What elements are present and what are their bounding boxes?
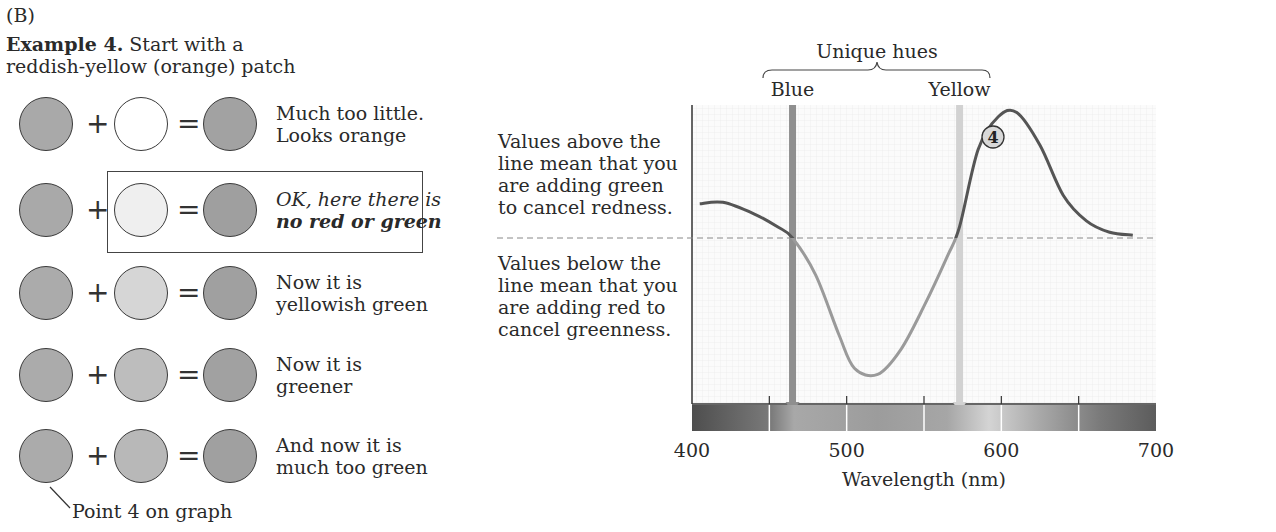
chart-title: Unique hues	[816, 40, 937, 62]
x-tick-labels: 400500600700	[674, 439, 1174, 461]
x-tick-label: 700	[1138, 439, 1174, 461]
hue-label-yellow: Yellow	[928, 78, 992, 100]
x-tick-label: 600	[983, 439, 1019, 461]
unique-hues-bracket	[763, 62, 990, 78]
svg-text:4: 4	[987, 128, 998, 147]
spectrum-bar	[692, 405, 1156, 431]
hue-cancellation-chart: Unique hues BlueYellow 4 400500600700 Wa…	[0, 0, 1276, 532]
x-axis-label: Wavelength (nm)	[842, 468, 1006, 490]
x-tick-label: 400	[674, 439, 710, 461]
point-4-marker: 4	[982, 126, 1004, 148]
hue-label-blue: Blue	[771, 78, 815, 100]
x-tick-label: 500	[829, 439, 865, 461]
